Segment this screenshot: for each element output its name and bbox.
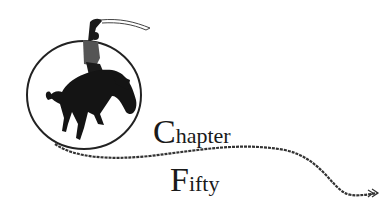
number-rest: ifty	[189, 171, 220, 196]
chapter-rest: hapter	[176, 123, 231, 148]
chapter-initial: C	[153, 113, 176, 150]
chapter-number: Fifty	[170, 163, 219, 197]
chapter-label: Chapter	[153, 115, 231, 149]
number-initial: F	[170, 161, 189, 198]
whip-icon	[100, 19, 150, 30]
bucking-horse-icon	[46, 70, 137, 140]
